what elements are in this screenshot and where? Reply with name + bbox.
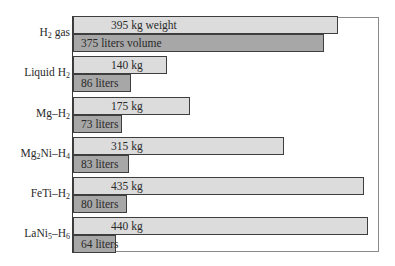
volume-value-label: 73 liters (81, 116, 118, 132)
category-label-subscript: 6 (66, 232, 70, 241)
category-label-text: Mg–H (36, 107, 66, 119)
volume-value-label: 80 liters (81, 196, 118, 212)
weight-value-label: 435 kg (111, 178, 143, 194)
volume-bar: 83 liters (73, 155, 129, 173)
category-label: H2 gas (39, 26, 70, 38)
volume-bar: 73 liters (73, 115, 122, 133)
category-label-text: gas (52, 26, 70, 38)
category-label-text: –H (52, 227, 66, 239)
volume-bar: 64 liters (73, 235, 116, 253)
volume-bar: 375 liters volume (73, 34, 324, 52)
weight-value-label: 395 kg weight (111, 17, 177, 33)
volume-value-label: 375 liters volume (81, 35, 162, 51)
weight-bar: 140 kg (73, 56, 167, 74)
weight-bar: 315 kg (73, 137, 284, 155)
weight-bar: 440 kg (73, 217, 368, 235)
category-label-text: LaNi (24, 227, 48, 239)
category-label: Mg2Ni–H4 (20, 147, 70, 159)
weight-value-label: 140 kg (111, 57, 143, 73)
volume-value-label: 86 liters (81, 75, 118, 91)
volume-bar: 80 liters (73, 195, 127, 213)
category-label: FeTi–H2 (31, 187, 70, 199)
category-label-subscript: 2 (66, 71, 70, 80)
weight-value-label: 440 kg (111, 218, 143, 234)
volume-value-label: 83 liters (81, 156, 118, 172)
volume-value-label: 64 liters (81, 236, 118, 252)
category-label-subscript: 2 (66, 112, 70, 121)
category-label: Liquid H2 (24, 66, 70, 78)
category-label-text: H (39, 26, 47, 38)
category-label: LaNi5–H6 (24, 227, 70, 239)
weight-value-label: 175 kg (111, 98, 143, 114)
category-label-text: Ni–H (40, 147, 66, 159)
weight-bar: 435 kg (73, 177, 364, 195)
category-label-subscript: 2 (66, 192, 70, 201)
category-label: Mg–H2 (36, 107, 70, 119)
volume-bar: 86 liters (73, 74, 131, 92)
category-label-text: Mg (20, 147, 36, 159)
weight-bar: 395 kg weight (73, 16, 338, 34)
category-label-subscript: 4 (66, 152, 70, 161)
weight-bar: 175 kg (73, 97, 190, 115)
category-label-text: Liquid H (24, 66, 66, 78)
weight-value-label: 315 kg (111, 138, 143, 154)
category-label-text: FeTi–H (31, 187, 66, 199)
